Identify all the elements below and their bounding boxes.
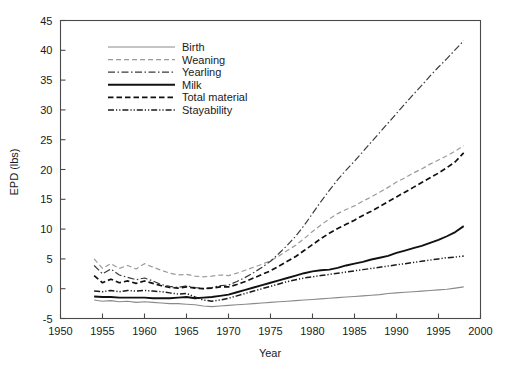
legend-label-yearling: Yearling: [182, 66, 221, 78]
x-tick-label: 1950: [48, 325, 72, 337]
line-chart-svg: -5051015202530354045 1950195519601965197…: [0, 0, 508, 372]
x-tick-label: 2000: [468, 325, 492, 337]
y-axis-title: EPD (lbs): [8, 148, 20, 195]
x-tick-label: 1985: [342, 325, 366, 337]
chart-background: [0, 0, 508, 372]
x-tick-label: 1965: [174, 325, 198, 337]
legend-label-milk: Milk: [182, 79, 202, 91]
y-tick-label: 20: [40, 164, 52, 176]
legend-label-total-material: Total material: [182, 91, 247, 103]
x-axis-title: Year: [259, 347, 282, 359]
y-tick-label: 0: [46, 283, 52, 295]
x-tick-label: 1980: [300, 325, 324, 337]
x-tick-label: 1995: [426, 325, 450, 337]
y-tick-label: 25: [40, 134, 52, 146]
x-tick-label: 1955: [90, 325, 114, 337]
y-tick-label: 30: [40, 104, 52, 116]
legend-label-stayability: Stayability: [182, 104, 233, 116]
y-tick-label: 15: [40, 193, 52, 205]
y-tick-label: 45: [40, 15, 52, 27]
y-tick-label: -5: [43, 313, 53, 325]
x-tick-label: 1990: [384, 325, 408, 337]
x-tick-label: 1970: [216, 325, 240, 337]
legend-label-birth: Birth: [182, 41, 205, 53]
chart-figure: -5051015202530354045 1950195519601965197…: [0, 0, 508, 372]
legend-label-weaning: Weaning: [182, 54, 225, 66]
y-tick-label: 5: [46, 253, 52, 265]
y-tick-label: 35: [40, 74, 52, 86]
y-tick-label: 40: [40, 44, 52, 56]
x-tick-label: 1960: [132, 325, 156, 337]
x-tick-label: 1975: [258, 325, 282, 337]
y-tick-label: 10: [40, 223, 52, 235]
